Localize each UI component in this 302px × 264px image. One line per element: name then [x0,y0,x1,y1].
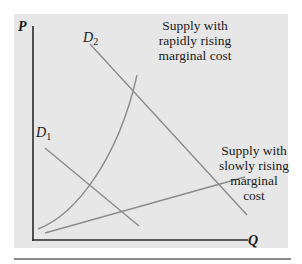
d2-label: D2 [83,30,98,47]
x-axis-label: Q [248,233,258,249]
supply-slow-label-line: cost [209,188,299,203]
demand-curve-d1 [45,148,139,226]
d1-label-name: D [36,125,46,140]
supply-slow-label-line: slowly rising [209,158,299,173]
bottom-rule [14,258,291,260]
y-axis-label: P [18,19,27,35]
supply-slow-label-line: marginal [209,173,299,188]
supply-curve-rapid [38,75,137,229]
d1-label: D1 [36,125,51,142]
supply-rapid-label-line: marginal cost [140,48,250,63]
supply-rapid-label: Supply with rapidly rising marginal cost [140,18,250,63]
d2-label-subscript: 2 [93,36,98,47]
supply-rapid-label-line: rapidly rising [140,33,250,48]
supply-slow-label-line: Supply with [209,143,299,158]
supply-slow-label: Supply with slowly rising marginal cost [209,143,299,203]
d1-label-subscript: 1 [46,131,51,142]
supply-rapid-label-line: Supply with [140,18,250,33]
d2-label-name: D [83,30,93,45]
